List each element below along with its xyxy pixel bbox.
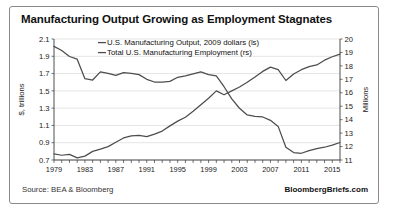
y-axis-tick-label: 0.9 [39,138,50,147]
y2-axis-tick-label: 14 [345,115,353,124]
y2-axis-title: Millions [361,87,370,113]
y2-axis-tick-label: 17 [345,75,353,84]
line-chart: 0.70.91.11.31.51.71.92.11112131415161718… [10,31,380,181]
chart-plot-area: 0.70.91.11.31.51.71.92.11112131415161718… [10,31,380,181]
y-axis-tick-label: 1.5 [39,87,50,96]
y2-axis-tick-label: 11 [345,156,353,165]
y-axis-tick-label: 1.1 [39,121,50,130]
x-axis-tick-label: 2003 [231,165,247,174]
legend-label-1: U.S. Manufacturing Output, 2009 dollars … [107,38,260,47]
y2-axis-tick-label: 19 [345,48,353,57]
y2-axis-tick-label: 15 [345,102,353,111]
x-axis-tick-label: 2007 [262,165,278,174]
y-axis-tick-label: 1.3 [39,104,50,113]
x-axis-tick-label: 1995 [169,165,185,174]
series-line-2 [54,46,340,153]
source-label: Source: BEA & Bloomberg [22,185,113,194]
x-axis-tick-label: 1979 [46,165,62,174]
x-axis-tick-label: 1991 [139,165,155,174]
page-title: Manufacturing Output Growing as Employme… [21,13,332,25]
y2-axis-tick-label: 20 [345,35,353,44]
y-axis-tick-label: 0.7 [39,156,50,165]
x-axis-tick-label: 2011 [293,165,309,174]
y2-axis-tick-label: 13 [345,129,353,138]
x-axis-tick-label: 1999 [200,165,216,174]
y2-axis-tick-label: 16 [345,88,353,97]
brand-label: BloombergBriefs.com [284,185,368,194]
x-axis-tick-label: 1987 [108,165,124,174]
y-axis-tick-label: 1.9 [39,52,50,61]
x-axis-tick-label: 2015 [324,165,340,174]
chart-footer: Source: BEA & Bloomberg BloombergBriefs.… [10,183,380,203]
y-axis-title: $, trillions [17,83,26,115]
y2-axis-tick-label: 18 [345,62,353,71]
chart-card: Manufacturing Output Growing as Employme… [9,6,379,204]
y-axis-tick-label: 1.7 [39,69,50,78]
y2-axis-tick-label: 12 [345,142,353,151]
x-axis-tick-label: 1983 [77,165,93,174]
legend-label-2: Total U.S. Manufacturing Employment (rs) [107,48,252,57]
series-line-1 [54,54,340,158]
y-axis-tick-label: 2.1 [39,35,50,44]
